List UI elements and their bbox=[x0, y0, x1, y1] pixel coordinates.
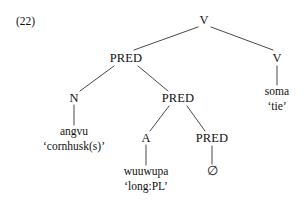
leaf-soma-word: soma bbox=[265, 84, 289, 99]
tree-edge-pred-upper-to-pred-middle bbox=[138, 66, 168, 91]
leaf-angvu: angvu ‘cornhusk(s)’ bbox=[43, 124, 105, 153]
leaf-null-empty-set-symbol: ∅ bbox=[207, 164, 218, 177]
node-pred-upper: PRED bbox=[110, 52, 142, 65]
node-pred-lower: PRED bbox=[196, 132, 228, 145]
syntax-tree-figure: (22) V PRED V N PRED A PRED soma ‘tie’ a… bbox=[0, 0, 306, 209]
leaf-wuuwupa: wuuwupa ‘long:PL’ bbox=[124, 164, 169, 193]
leaf-angvu-gloss: ‘cornhusk(s)’ bbox=[43, 139, 105, 154]
tree-edge-pred-middle-to-a bbox=[150, 106, 169, 131]
leaf-soma-gloss: ‘tie’ bbox=[265, 99, 289, 114]
tree-edge-pred-middle-to-pred-lower bbox=[187, 106, 205, 131]
node-n: N bbox=[69, 92, 78, 105]
leaf-wuuwupa-gloss: ‘long:PL’ bbox=[124, 179, 169, 194]
tree-edge-root-v-to-v-right bbox=[211, 27, 273, 50]
leaf-soma: soma ‘tie’ bbox=[265, 84, 289, 113]
node-pred-middle: PRED bbox=[162, 92, 194, 105]
node-a: A bbox=[141, 132, 150, 145]
node-root-v: V bbox=[199, 14, 208, 27]
tree-edge-root-v-to-pred-upper bbox=[134, 27, 198, 50]
node-v-right: V bbox=[272, 52, 281, 65]
leaf-angvu-word: angvu bbox=[43, 124, 105, 139]
leaf-wuuwupa-word: wuuwupa bbox=[124, 164, 169, 179]
tree-edge-pred-upper-to-n bbox=[80, 66, 114, 91]
